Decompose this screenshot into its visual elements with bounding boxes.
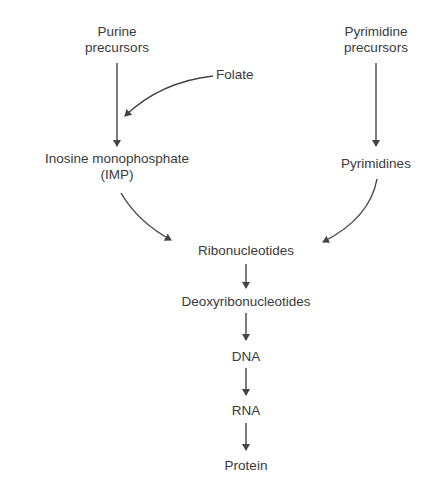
node-ribonucleotides: Ribonucleotides: [166, 243, 326, 259]
node-pyrimidine-precursors: Pyrimidine precursors: [326, 24, 426, 56]
pyrimidine-precursors-line1: Pyrimidine: [326, 24, 426, 40]
purine-precursors-line2: precursors: [67, 40, 167, 56]
arrow-imp-to-ribonucleotides: [121, 193, 171, 240]
imp-line1: Inosine monophosphate: [17, 151, 217, 167]
node-pyrimidines: Pyrimidines: [326, 156, 426, 172]
node-folate: Folate: [216, 67, 254, 83]
purine-precursors-line1: Purine: [67, 24, 167, 40]
node-rna: RNA: [206, 403, 286, 419]
node-imp: Inosine monophosphate (IMP): [17, 151, 217, 183]
arrow-pyrimidines-to-ribonucleotides: [323, 179, 377, 242]
arrow-folate-to-purine-path: [125, 76, 213, 116]
node-protein: Protein: [196, 458, 296, 474]
pyrimidine-precursors-line2: precursors: [326, 40, 426, 56]
node-deoxyribonucleotides: Deoxyribonucleotides: [146, 294, 346, 310]
node-dna: DNA: [206, 349, 286, 365]
node-purine-precursors: Purine precursors: [67, 24, 167, 56]
imp-line2: (IMP): [17, 167, 217, 183]
